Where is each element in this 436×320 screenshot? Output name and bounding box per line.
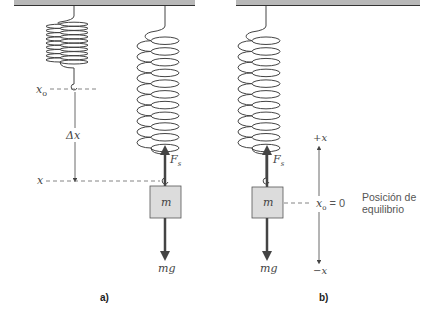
- spring-mass-diagram: xo Δx x Fs m mg a) Fs m mg +x −x xo = 0 …: [0, 0, 436, 320]
- spring-coil: [46, 6, 88, 84]
- x-label: x: [37, 174, 44, 187]
- spring-force-label-b: Fs: [272, 153, 285, 168]
- caption-a: a): [100, 292, 109, 303]
- spring-force-label-a: Fs: [169, 153, 182, 168]
- equilibrium-label-line2: equilibrio: [362, 203, 404, 215]
- caption-b: b): [319, 292, 328, 303]
- weight-label-a: mg: [158, 262, 175, 275]
- minus-x-label: −x: [313, 265, 327, 276]
- mass-label-b: m: [263, 196, 273, 209]
- plus-x-label: +x: [313, 132, 327, 143]
- diagram-canvas: xo Δx x Fs m mg a) Fs m mg +x −x xo = 0 …: [0, 0, 436, 320]
- delta-x-label: Δx: [65, 129, 81, 142]
- unloaded-spring: [46, 6, 88, 90]
- weight-label-b: mg: [260, 262, 277, 275]
- mass-label-a: m: [161, 196, 171, 209]
- equilibrium-label-line1: Posición de: [362, 191, 416, 203]
- x0-label: xo: [36, 83, 47, 98]
- ceiling-b: [236, 0, 420, 5]
- ceiling-a: [14, 0, 195, 5]
